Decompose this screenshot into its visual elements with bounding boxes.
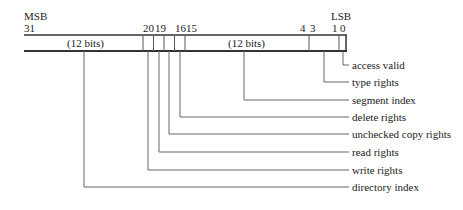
bit-number-1: 1 [332, 22, 338, 34]
label-type-rights: type rights [352, 76, 399, 88]
leader-lines [84, 51, 349, 187]
leader-read-rights [159, 51, 349, 152]
lsb-label: LSB [331, 10, 351, 22]
label-directory-index: directory index [352, 181, 419, 193]
bit-number-15: 15 [186, 22, 197, 34]
segment-index-size: (12 bits) [228, 37, 265, 49]
bit-number-4: 4 [300, 22, 306, 34]
bit-number-19: 19 [155, 22, 166, 34]
directory-index-size: (12 bits) [67, 37, 104, 49]
bit-number-20: 20 [143, 22, 154, 34]
msb-label: MSB [24, 10, 47, 22]
bit-number-16: 16 [175, 22, 186, 34]
label-unchecked-copy-rights: unchecked copy rights [352, 128, 451, 140]
label-access-valid: access valid [352, 59, 405, 71]
leader-access-valid [343, 51, 349, 65]
leader-segment-index [244, 51, 349, 100]
leader-unchecked-copy-rights [169, 51, 349, 134]
bit-number-0: 0 [340, 22, 346, 34]
label-segment-index: segment index [352, 94, 416, 106]
leader-type-rights [324, 51, 349, 82]
bit-number-3: 3 [310, 22, 316, 34]
label-delete-rights: delete rights [352, 111, 406, 123]
label-read-rights: read rights [352, 146, 399, 158]
bit-number-31: 31 [24, 22, 35, 34]
leader-directory-index [84, 51, 349, 187]
label-write-rights: write rights [352, 164, 402, 176]
